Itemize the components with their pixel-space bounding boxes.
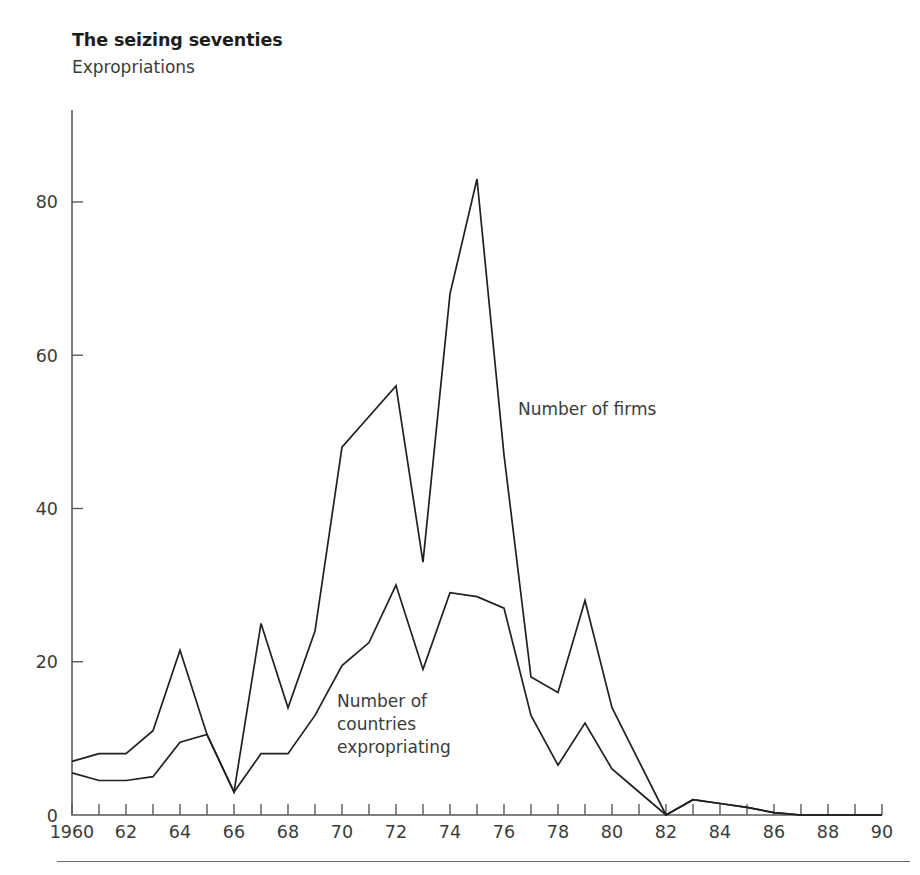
x-axis-tick-label: 66 <box>223 822 245 842</box>
y-axis-tick-label: 40 <box>36 499 58 519</box>
y-axis-ticks <box>72 202 83 662</box>
series-line-number-of-countries <box>72 585 882 815</box>
x-axis-tick-label: 72 <box>385 822 407 842</box>
x-axis-tick-label: 88 <box>817 822 839 842</box>
chart-axes: 020406080 196062646668707274767880828486… <box>36 110 893 842</box>
x-axis-tick-label: 80 <box>601 822 623 842</box>
x-axis-tick-label: 82 <box>655 822 677 842</box>
x-axis-tick-label: 70 <box>331 822 353 842</box>
x-axis-tick-label: 68 <box>277 822 299 842</box>
x-axis-tick-label: 1960 <box>50 822 95 842</box>
chart-annotations: Number of firms Number of countries expr… <box>337 399 656 757</box>
series-label-countries-line3: expropriating <box>337 737 451 757</box>
x-axis-tick-label: 76 <box>493 822 515 842</box>
y-axis-tick-label: 80 <box>36 192 58 212</box>
axis-lines <box>72 110 882 815</box>
expropriations-chart-figure: The seizing seventies Expropriations 020… <box>0 0 920 875</box>
x-axis-tick-label: 78 <box>547 822 569 842</box>
bottom-divider-rule <box>57 861 910 862</box>
y-axis-tick-labels: 020406080 <box>36 192 58 825</box>
y-axis-tick-label: 60 <box>36 346 58 366</box>
series-label-countries-line2: countries <box>337 714 416 734</box>
chart-series <box>72 179 882 815</box>
series-line-number-of-firms <box>72 179 882 815</box>
x-axis-tick-label: 84 <box>709 822 731 842</box>
x-axis-tick-label: 74 <box>439 822 461 842</box>
x-axis-tick-label: 64 <box>169 822 191 842</box>
x-axis-tick-label: 62 <box>115 822 137 842</box>
x-axis-tick-labels: 1960626466687072747678808284868890 <box>50 822 893 842</box>
line-chart-plot: 020406080 196062646668707274767880828486… <box>0 0 920 875</box>
series-label-countries-line1: Number of <box>337 691 428 711</box>
series-label-number-of-firms: Number of firms <box>518 399 656 419</box>
x-axis-tick-label: 86 <box>763 822 785 842</box>
x-axis-tick-label: 90 <box>871 822 893 842</box>
y-axis-tick-label: 20 <box>36 652 58 672</box>
